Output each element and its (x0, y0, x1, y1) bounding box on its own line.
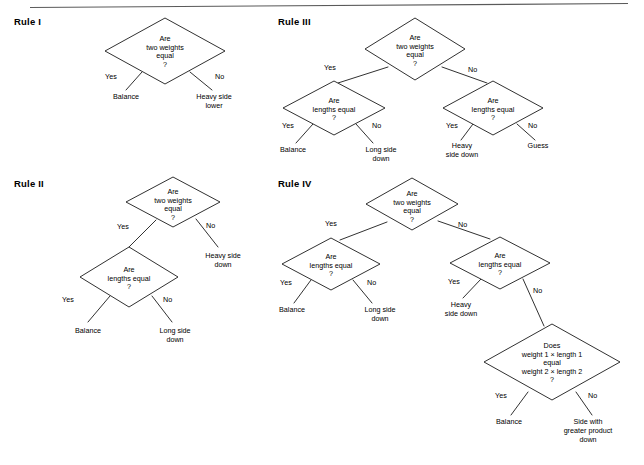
r4-leaf-e-line-0: Side with (573, 417, 602, 426)
r3-leaf-a: Balance (280, 145, 306, 154)
r3-q3-line-2: ? (491, 113, 495, 122)
page-header (30, 4, 628, 8)
r3-leaf-d-line-0: Guess (528, 141, 549, 150)
r3-leaf-b-line-0: Long side (365, 145, 396, 154)
r3-leaf-c-line-0: Heavy (452, 141, 473, 150)
r1-e-yes-line (126, 72, 142, 90)
figure-root: Rule IYesNoAretwo weightsequal?BalanceHe… (0, 0, 644, 465)
r3-e-no2-label: No (372, 121, 381, 130)
r4-e-yes-label: Yes (325, 219, 337, 228)
r4-leaf-e-line-1: greater product (564, 426, 613, 435)
r2-leaf-no-line-0: Long side (159, 326, 190, 335)
r3-leaf-a-line-0: Balance (280, 145, 306, 154)
r4-q4-line-4: ? (550, 375, 554, 384)
r4-q1-line-3: ? (410, 215, 414, 224)
r4-e-no-label: No (458, 220, 467, 229)
r4-q2-line-2: ? (329, 269, 333, 278)
r3-e-yes3-label: Yes (446, 121, 458, 130)
r4-leaf-a: Balance (279, 305, 305, 314)
rule-trees-layer: Rule IYesNoAretwo weightsequal?BalanceHe… (14, 16, 620, 444)
r4-leaf-c-line-0: Heavy (451, 300, 472, 309)
r2-leaf-yes-line-0: Balance (75, 326, 101, 335)
r2-e-yes2-line (88, 296, 110, 322)
r3-leaf-d: Guess (528, 141, 549, 150)
rule-4: Rule IVYesNoYesNoYesNoYesNoAretwo weight… (278, 178, 620, 444)
decision-trees-figure: Rule IYesNoAretwo weightsequal?BalanceHe… (0, 0, 644, 465)
r4-e-yes4-line (511, 392, 528, 415)
r1-leaf-yes: Balance (113, 92, 139, 101)
r2-leaf-no-top-line-0: Heavy side (205, 251, 241, 260)
r3-leaf-c: Heavyside down (446, 141, 478, 159)
r3-q1-line-3: ? (413, 59, 417, 68)
r2-leaf-yes: Balance (75, 326, 101, 335)
r4-e-yes2-label: Yes (280, 278, 292, 287)
r2-leaf-no-top-line-1: down (214, 260, 231, 269)
header-rule-line (30, 4, 628, 8)
rule-2-title: Rule II (14, 178, 44, 189)
r3-leaf-b-line-1: down (372, 154, 389, 163)
rule-2: Rule IIYesNoYesNoAretwo weightsequal?Are… (14, 177, 241, 344)
r1-e-no-label: No (215, 72, 224, 81)
r3-leaf-c-line-1: side down (446, 150, 478, 159)
r4-leaf-d: Balance (496, 417, 522, 426)
r3-e-no-line (442, 67, 487, 83)
r3-e-no3-label: No (528, 121, 537, 130)
r4-e-yes2-line (294, 280, 311, 303)
r2-leaf-no-top: Heavy sidedown (205, 251, 241, 269)
r2-e-yes-line (129, 220, 156, 247)
r1-q1-line-3: ? (163, 60, 167, 69)
r4-e-yes-line (340, 222, 387, 240)
r4-leaf-c-line-1: side down (445, 309, 477, 318)
r2-leaf-no-line-1: down (166, 335, 183, 344)
r3-e-yes3-line (461, 124, 473, 140)
r3-e-yes-line (338, 67, 388, 83)
r1-leaf-no-line-0: Heavy side (196, 92, 232, 101)
r4-e-no2-label: No (367, 278, 376, 287)
r2-q2-line-2: ? (127, 282, 131, 291)
r3-e-yes2-line (296, 124, 313, 143)
r2-e-no-label: No (206, 221, 215, 230)
r2-e-yes-label: Yes (117, 222, 129, 231)
r2-e-yes2-label: Yes (62, 295, 74, 304)
rule-1: Rule IYesNoAretwo weightsequal?BalanceHe… (14, 16, 232, 110)
r1-e-yes-label: Yes (105, 72, 117, 81)
r4-leaf-a-line-0: Balance (279, 305, 305, 314)
r4-e-yes4-label: Yes (495, 391, 507, 400)
r4-leaf-b: Long sidedown (364, 305, 395, 323)
r2-e-no2-label: No (163, 295, 172, 304)
r4-leaf-c: Heavyside down (445, 300, 477, 318)
r4-leaf-e: Side withgreater productdown (564, 417, 613, 444)
r2-leaf-no: Long sidedown (159, 326, 190, 344)
r4-leaf-b-line-0: Long side (364, 305, 395, 314)
rule-3-title: Rule III (278, 16, 311, 27)
r1-leaf-no-line-1: lower (205, 101, 223, 110)
r1-leaf-yes-line-0: Balance (113, 92, 139, 101)
r3-e-no-label: No (468, 65, 477, 74)
rule-1-title: Rule I (14, 16, 41, 27)
r3-leaf-b: Long sidedown (365, 145, 396, 163)
r1-leaf-no: Heavy sidelower (196, 92, 232, 110)
r3-e-no2-line (356, 124, 373, 143)
r4-e-yes3-label: Yes (448, 277, 460, 286)
rule-3: Rule IIIYesNoYesNoYesNoAretwo weightsequ… (278, 16, 549, 163)
r4-leaf-e-line-2: down (579, 435, 596, 444)
r3-e-yes2-label: Yes (282, 121, 294, 130)
r4-leaf-b-line-1: down (371, 314, 388, 323)
r4-e-no4-label: No (588, 391, 597, 400)
r4-q3-line-2: ? (498, 268, 502, 277)
r4-e-no3-label: No (533, 286, 542, 295)
r3-e-yes-label: Yes (324, 63, 336, 72)
r2-q1-line-3: ? (171, 213, 175, 222)
rule-4-title: Rule IV (278, 178, 312, 189)
r3-q2-line-2: ? (332, 113, 336, 122)
r4-leaf-d-line-0: Balance (496, 417, 522, 426)
r4-e-yes3-line (463, 279, 481, 298)
r1-e-no-line (190, 72, 212, 90)
